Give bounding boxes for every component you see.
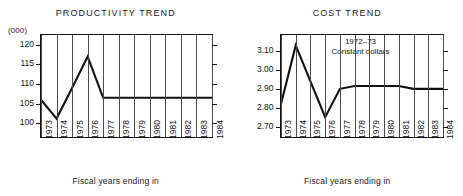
y-axis-label-115: 115 — [8, 58, 34, 68]
x-axis-label-1976: 1976 — [327, 120, 337, 139]
y-tick-right-120 — [212, 45, 217, 46]
chart-title-productivity: PRODUCTIVITY TREND — [0, 8, 232, 18]
gridline-1978 — [119, 35, 120, 137]
x-axis-label-1984: 1984 — [445, 120, 455, 139]
y-tick-right-115 — [212, 64, 217, 65]
gridline-1974 — [296, 35, 297, 137]
cost-annotation-line1: 1972–73 — [313, 37, 409, 47]
x-axis-label-1977: 1977 — [342, 120, 352, 139]
cost-annotation-line2: Constant dollars — [313, 47, 409, 57]
gridline-1978 — [355, 35, 356, 137]
y-tick-left-100 — [36, 123, 41, 124]
gridline-1981 — [165, 35, 166, 137]
y-axis-label-3.10: 3.10 — [248, 45, 274, 55]
gridline-1975 — [72, 35, 73, 137]
y-tick-right-3.10 — [443, 51, 448, 52]
y-tick-right-110 — [212, 84, 217, 85]
gridline-1977 — [103, 35, 104, 137]
x-axis-label-1978: 1978 — [121, 120, 131, 139]
y-axis-label-100: 100 — [8, 117, 34, 127]
gridline-1974 — [57, 35, 58, 137]
x-axis-label-1984: 1984 — [215, 120, 225, 139]
two-chart-figure: PRODUCTIVITY TREND (000) Fiscal years en… — [0, 0, 463, 196]
x-axis-label-1979: 1979 — [371, 120, 381, 139]
panel-cost: COST TREND 1972–73 Constant dollars Fisc… — [232, 0, 463, 196]
productivity-data-line — [41, 57, 212, 119]
x-axis-label-1983: 1983 — [430, 120, 440, 139]
gridline-1979 — [369, 35, 370, 137]
x-axis-label-1978: 1978 — [357, 120, 367, 139]
y-tick-left-2.90 — [276, 89, 281, 90]
y-tick-right-105 — [212, 104, 217, 105]
y-tick-left-120 — [36, 45, 41, 46]
gridline-1976 — [325, 35, 326, 137]
x-axis-caption-cost: Fiscal years ending in — [232, 176, 463, 186]
gridline-1982 — [414, 35, 415, 137]
gridline-1976 — [88, 35, 89, 137]
x-axis-label-1980: 1980 — [386, 120, 396, 139]
gridline-1983 — [428, 35, 429, 137]
y-axis-label-2.90: 2.90 — [248, 83, 274, 93]
x-axis-label-1975: 1975 — [75, 120, 85, 139]
gridline-1984 — [212, 35, 213, 137]
x-axis-label-1975: 1975 — [312, 120, 322, 139]
x-axis-label-1982: 1982 — [416, 120, 426, 139]
y-tick-left-2.80 — [276, 108, 281, 109]
y-tick-left-3.10 — [276, 51, 281, 52]
x-axis-label-1977: 1977 — [106, 120, 116, 139]
x-axis-label-1973: 1973 — [44, 120, 54, 139]
x-axis-label-1974: 1974 — [298, 120, 308, 139]
cost-annotation: 1972–73 Constant dollars — [313, 37, 409, 57]
gridline-1979 — [134, 35, 135, 137]
y-axis-label-120: 120 — [8, 39, 34, 49]
gridline-1977 — [340, 35, 341, 137]
gridline-1980 — [384, 35, 385, 137]
y-tick-right-3.00 — [443, 70, 448, 71]
y-axis-label-105: 105 — [8, 98, 34, 108]
x-axis-label-1981: 1981 — [401, 120, 411, 139]
gridline-1980 — [150, 35, 151, 137]
gridline-1973 — [281, 35, 282, 137]
y-tick-left-3.00 — [276, 70, 281, 71]
y-axis-label-3.00: 3.00 — [248, 64, 274, 74]
panel-productivity: PRODUCTIVITY TREND (000) Fiscal years en… — [0, 0, 232, 196]
chart-title-cost: COST TREND — [232, 8, 463, 18]
y-axis-unit-label-productivity: (000) — [8, 26, 27, 35]
y-tick-right-2.90 — [443, 89, 448, 90]
gridline-1982 — [181, 35, 182, 137]
gridline-1983 — [196, 35, 197, 137]
y-tick-right-2.80 — [443, 108, 448, 109]
y-tick-left-2.70 — [276, 127, 281, 128]
y-tick-left-115 — [36, 64, 41, 65]
gridline-1981 — [399, 35, 400, 137]
x-axis-label-1981: 1981 — [168, 120, 178, 139]
gridline-1973 — [41, 35, 42, 137]
x-axis-label-1982: 1982 — [183, 120, 193, 139]
x-axis-caption-productivity: Fiscal years ending in — [0, 176, 232, 186]
y-axis-label-2.80: 2.80 — [248, 102, 274, 112]
gridline-1975 — [310, 35, 311, 137]
y-axis-label-2.70: 2.70 — [248, 121, 274, 131]
x-axis-label-1979: 1979 — [137, 120, 147, 139]
x-axis-label-1976: 1976 — [90, 120, 100, 139]
y-tick-left-110 — [36, 84, 41, 85]
x-axis-label-1980: 1980 — [152, 120, 162, 139]
x-axis-label-1974: 1974 — [59, 120, 69, 139]
x-axis-label-1973: 1973 — [283, 120, 293, 139]
y-axis-label-110: 110 — [8, 78, 34, 88]
y-tick-left-105 — [36, 104, 41, 105]
x-axis-label-1983: 1983 — [199, 120, 209, 139]
